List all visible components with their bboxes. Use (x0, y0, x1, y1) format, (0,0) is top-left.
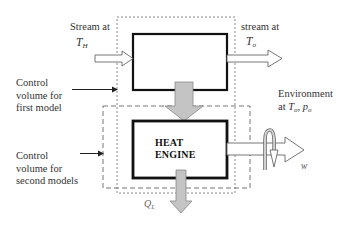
engine-line2: ENGINE (155, 149, 196, 161)
stream-inlet-temperature: TH (76, 36, 87, 53)
work-symbol: w (301, 161, 307, 171)
cv-second-line2: volume for (16, 163, 78, 176)
cv-second-line1: Control (16, 150, 78, 163)
cv-first-model-label: Control volume for first model (16, 77, 62, 115)
environment-pressure-subscript: o (308, 106, 312, 114)
temp-subscript: H (82, 42, 87, 50)
stream-outlet-label: stream at (241, 21, 279, 34)
stream-inlet-text: Stream at (70, 21, 110, 34)
cv-second-model-label: Control volume for second models (16, 150, 78, 188)
environment-conditions: at To, po (278, 101, 333, 117)
engine-line1: HEAT (155, 137, 196, 149)
stream-outlet-temperature: To (246, 35, 256, 52)
cv-first-line3: first model (16, 102, 62, 115)
stream-outlet-text: stream at (241, 21, 279, 34)
environment-label: Environment at To, po (278, 88, 333, 116)
pointer-arrow-first-model (72, 87, 118, 93)
environment-text: Environment (278, 88, 333, 101)
cv-second-line3: second models (16, 175, 78, 188)
work-label: w (301, 160, 307, 173)
stream-inlet-arrow (95, 51, 133, 66)
cv-first-line1: Control (16, 77, 62, 90)
temp-subscript: o (252, 41, 256, 49)
cv-first-line2: volume for (16, 90, 62, 103)
environment-prefix: at (278, 101, 288, 112)
heat-engine-label: HEAT ENGINE (155, 137, 196, 161)
heat-rejected-label: QL (144, 198, 155, 214)
pointer-arrow-second-model (80, 151, 104, 157)
heat-subscript: L (151, 203, 155, 211)
stream-inlet-label: Stream at (70, 21, 110, 34)
